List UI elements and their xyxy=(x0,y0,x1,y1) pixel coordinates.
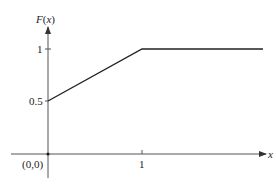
y-tick-label-0.5: 0.5 xyxy=(29,95,43,107)
x-axis-label: x xyxy=(267,148,273,160)
x-tick-label-1: 1 xyxy=(139,158,145,170)
y-axis-label: F(x) xyxy=(35,13,55,26)
cdf-chart: F(x) x 1 0.5 1 (0,0) xyxy=(0,0,276,185)
cdf-curve xyxy=(48,49,263,101)
origin-point xyxy=(46,152,49,155)
origin-label: (0,0) xyxy=(22,158,43,171)
y-tick-label-1: 1 xyxy=(37,43,43,55)
